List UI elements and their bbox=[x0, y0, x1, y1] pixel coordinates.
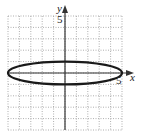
y-tick-label: 5 bbox=[57, 14, 63, 25]
x-tick-label: 5 bbox=[116, 75, 122, 86]
coordinate-plane bbox=[0, 0, 142, 137]
y-axis-arrow-icon bbox=[62, 5, 68, 13]
x-axis-label: x bbox=[130, 72, 135, 83]
